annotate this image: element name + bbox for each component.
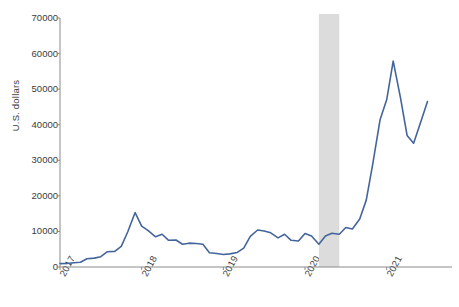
data-series-line [60, 61, 428, 264]
recession-shading [319, 14, 339, 267]
plot-area [0, 0, 459, 307]
chart-container: U.S. dollars 010000200003000040000500006… [0, 0, 459, 307]
shaded-region-layer [319, 14, 339, 267]
